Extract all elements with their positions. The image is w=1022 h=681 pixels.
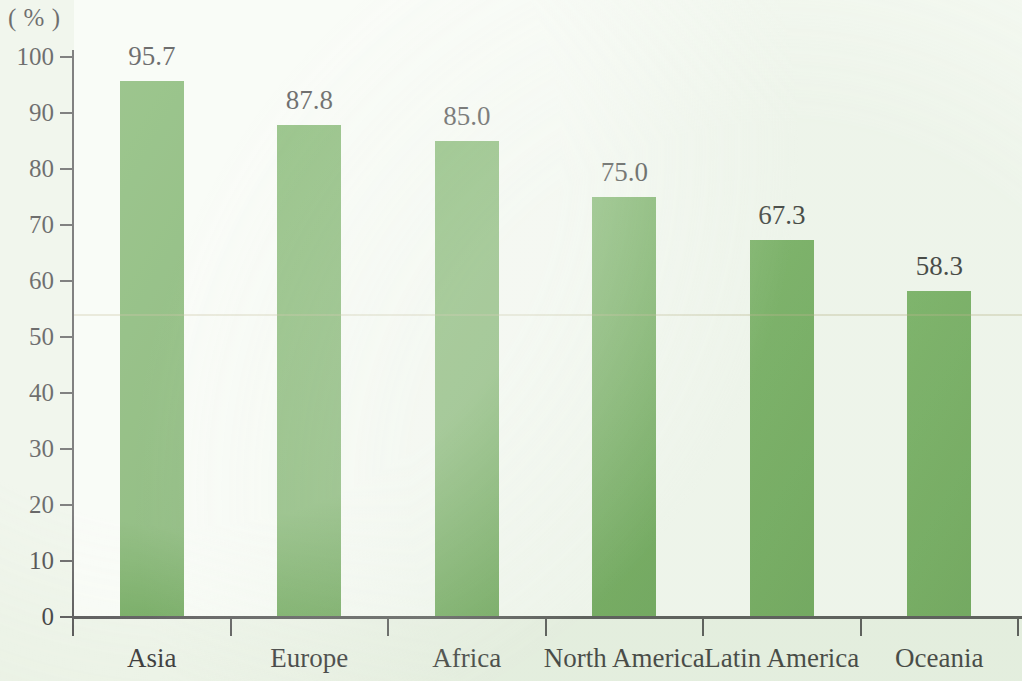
x-axis-tick: [1017, 619, 1019, 636]
y-axis-tick-label: 10: [0, 548, 54, 573]
y-axis-tick: [60, 280, 72, 282]
bar: [435, 141, 499, 617]
y-axis-tick: [60, 56, 72, 58]
y-axis-tick: [60, 336, 72, 338]
bar-value-label: 75.0: [554, 157, 694, 187]
bar-value-label: 95.7: [82, 41, 222, 71]
bar: [750, 240, 814, 617]
y-axis-tick: [60, 112, 72, 114]
bar-value-label: 58.3: [869, 251, 1009, 281]
y-axis-line: [72, 50, 74, 619]
x-axis-tick: [702, 619, 704, 636]
x-axis-line: [72, 616, 1022, 619]
y-axis-tick: [60, 504, 72, 506]
y-axis-tick-label: 70: [0, 212, 54, 237]
y-axis-tick-label: 80: [0, 156, 54, 181]
bar: [277, 125, 341, 617]
y-axis-tick: [60, 560, 72, 562]
y-axis-unit-caption: ( % ): [8, 4, 60, 32]
bar: [592, 197, 656, 617]
x-axis-tick: [387, 619, 389, 636]
y-axis-tick-label: 90: [0, 100, 54, 125]
y-axis-tick: [60, 448, 72, 450]
y-axis-tick-label: 50: [0, 324, 54, 349]
bar-chart-figure: ( % ) 1009080706050403020100 95.787.885.…: [0, 0, 1022, 681]
bar-value-label: 85.0: [397, 101, 537, 131]
y-axis-tick: [60, 224, 72, 226]
x-axis-category-label: Oceania: [834, 643, 1022, 674]
y-axis-tick-label: 0: [0, 604, 54, 629]
x-axis-tick: [72, 619, 74, 636]
x-axis-tick: [860, 619, 862, 636]
y-axis-tick-label: 30: [0, 436, 54, 461]
bar-value-label: 67.3: [712, 200, 852, 230]
y-axis-tick-label: 100: [0, 44, 54, 69]
bar-value-label: 87.8: [239, 85, 379, 115]
y-axis-tick-label: 60: [0, 268, 54, 293]
y-axis-tick: [60, 168, 72, 170]
y-axis-tick: [60, 392, 72, 394]
y-axis-tick: [60, 616, 72, 618]
y-axis-tick-label: 40: [0, 380, 54, 405]
bar: [907, 291, 971, 617]
x-axis-tick: [230, 619, 232, 636]
y-axis-tick-label: 20: [0, 492, 54, 517]
x-axis-tick: [545, 619, 547, 636]
bar: [120, 81, 184, 617]
